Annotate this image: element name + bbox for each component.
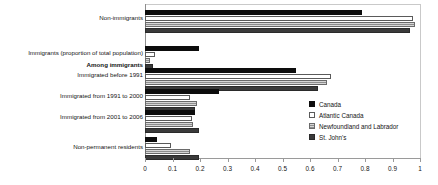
x-tick-label: 0.1 xyxy=(168,165,177,173)
bar-row xyxy=(145,46,420,51)
bar-row xyxy=(145,16,420,21)
x-tick-label: 0.6 xyxy=(306,165,315,173)
bar-row xyxy=(145,52,420,57)
legend-item-canada[interactable]: Canada xyxy=(309,99,398,109)
legend-label: St. John's xyxy=(319,134,346,141)
x-tick-mark xyxy=(365,158,366,162)
x-tick-mark xyxy=(338,158,339,162)
bar-row xyxy=(145,89,420,94)
x-tick-mark xyxy=(200,158,201,162)
x-tick-label: 0.7 xyxy=(333,165,342,173)
category-label-immigrants-proportion: Immigrants (proportion of total populati… xyxy=(28,49,143,56)
legend: Canada Atlantic Canada Newfoundland and … xyxy=(309,99,398,143)
bar-st-johns xyxy=(145,28,410,33)
bar-canada xyxy=(145,110,195,115)
bar-row xyxy=(145,22,420,27)
bar-chart: Non-immigrants Immigrants (proportion of… xyxy=(0,0,438,185)
x-tick-label: 0 xyxy=(143,165,147,173)
bar-row xyxy=(145,80,420,85)
category-label-among-immigrants: Among immigrants xyxy=(87,61,143,68)
x-tick-mark xyxy=(393,158,394,162)
bar-atlantic-canada xyxy=(145,116,192,121)
bar-row xyxy=(145,149,420,154)
bar-atlantic-canada xyxy=(145,52,155,57)
x-tick-mark xyxy=(283,158,284,162)
bar-newfoundland-labrador xyxy=(145,101,197,106)
legend-label: Canada xyxy=(319,101,341,108)
category-label-non-immigrants: Non-immigrants xyxy=(99,14,143,21)
bar-newfoundland-labrador xyxy=(145,122,193,127)
legend-item-newfoundland-labrador[interactable]: Newfoundland and Labrador xyxy=(309,121,398,131)
canada-swatch-icon xyxy=(309,101,315,107)
x-tick-label: 0.3 xyxy=(223,165,232,173)
bar-row xyxy=(145,58,420,63)
plot-right-border xyxy=(420,4,421,158)
legend-item-st-johns[interactable]: St. John's xyxy=(309,132,398,142)
x-tick-label: 0.9 xyxy=(388,165,397,173)
x-tick-mark xyxy=(255,158,256,162)
category-label-1991-2000: Immigrated from 1991 to 2000 xyxy=(60,92,143,99)
bar-group-non-immigrants xyxy=(145,10,420,34)
x-tick-mark xyxy=(420,158,421,162)
bar-row xyxy=(145,28,420,33)
bar-atlantic-canada xyxy=(145,16,413,21)
bar-canada xyxy=(145,137,157,142)
x-tick-label: 0.4 xyxy=(251,165,260,173)
x-tick-label: 1 xyxy=(418,165,422,173)
bar-canada xyxy=(145,10,362,15)
bar-group-immigrants-proportion xyxy=(145,46,420,70)
category-label-before-1991: Immigrated before 1991 xyxy=(77,71,143,78)
bar-newfoundland-labrador xyxy=(145,80,327,85)
bar-row xyxy=(145,68,420,73)
x-tick-label: 0.8 xyxy=(361,165,370,173)
bar-newfoundland-labrador xyxy=(145,58,150,63)
bar-st-johns xyxy=(145,128,199,133)
category-label-non-permanent-residents: Non-permanent residents xyxy=(73,143,143,150)
newfoundland-labrador-swatch-icon xyxy=(309,123,315,129)
bar-row xyxy=(145,143,420,148)
bar-atlantic-canada xyxy=(145,95,190,100)
bar-newfoundland-labrador xyxy=(145,22,415,27)
x-tick-mark xyxy=(145,158,146,162)
bar-canada xyxy=(145,68,296,73)
x-tick-mark xyxy=(310,158,311,162)
bar-row xyxy=(145,74,420,79)
atlantic-canada-swatch-icon xyxy=(309,112,315,118)
category-label-2001-2006: Immigrated from 2001 to 2006 xyxy=(60,113,143,120)
x-tick-label: 0.2 xyxy=(196,165,205,173)
bar-canada xyxy=(145,46,199,51)
x-tick-label: 0.5 xyxy=(278,165,287,173)
legend-label: Atlantic Canada xyxy=(319,112,363,119)
legend-item-atlantic-canada[interactable]: Atlantic Canada xyxy=(309,110,398,120)
bar-canada xyxy=(145,89,219,94)
bar-row xyxy=(145,10,420,15)
st-johns-swatch-icon xyxy=(309,134,315,140)
bar-atlantic-canada xyxy=(145,74,331,79)
legend-label: Newfoundland and Labrador xyxy=(319,123,398,130)
x-tick-mark xyxy=(173,158,174,162)
bar-atlantic-canada xyxy=(145,143,171,148)
x-tick-mark xyxy=(228,158,229,162)
bar-newfoundland-labrador xyxy=(145,149,190,154)
